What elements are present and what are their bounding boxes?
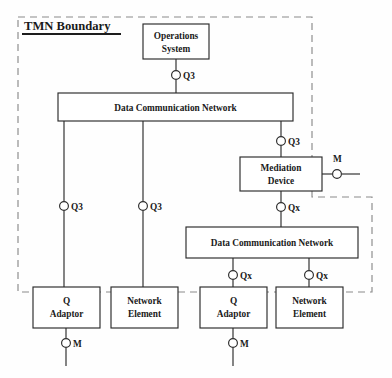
interface-m-q-adaptor-right[interactable]: M	[229, 339, 249, 349]
interface-circle-icon[interactable]	[60, 202, 69, 211]
interface-circle-icon[interactable]	[172, 71, 181, 80]
dcn-bottom-label: Data Communication Network	[211, 238, 334, 248]
node-data-communication-network-bottom[interactable]: Data Communication Network	[186, 227, 358, 258]
interface-circle-icon[interactable]	[277, 137, 286, 146]
diagram-canvas: TMN Boundary Op	[0, 0, 392, 378]
node-q-adaptor-left[interactable]: Q Adaptor	[33, 287, 100, 328]
network-element-left-label-line2: Element	[128, 309, 162, 319]
interface-m-mediation-label: M	[333, 154, 342, 164]
mediation-device-label-line1: Mediation	[261, 163, 303, 173]
interface-qx-network-element-right[interactable]: Qx	[305, 271, 329, 281]
mediation-device-label-line2: Device	[268, 176, 294, 186]
interface-qx-mediation-dcn[interactable]: Qx	[277, 203, 301, 213]
interface-m-q-adaptor-left-label: M	[73, 339, 82, 349]
interface-q3-dcn-mediation-label: Q3	[288, 137, 300, 147]
node-network-element-left[interactable]: Network Element	[111, 287, 178, 328]
operations-system-label-line2: System	[162, 44, 191, 54]
interface-q3-os-dcn[interactable]: Q3	[172, 71, 196, 81]
interface-m-q-adaptor-left[interactable]: M	[62, 339, 82, 349]
tmn-architecture-diagram: TMN Boundary Op	[0, 0, 392, 378]
interface-circle-icon[interactable]	[229, 339, 238, 348]
q-adaptor-right-box[interactable]	[200, 287, 267, 328]
network-element-left-label-line1: Network	[127, 296, 162, 306]
interface-qx-q-adaptor-right[interactable]: Qx	[229, 271, 253, 281]
q-adaptor-left-label-line1: Q	[63, 296, 70, 306]
node-data-communication-network-top[interactable]: Data Communication Network	[58, 93, 293, 121]
interface-qx-network-element-right-label: Qx	[316, 271, 328, 281]
network-element-left-box[interactable]	[111, 287, 178, 328]
network-element-right-label-line1: Network	[292, 296, 327, 306]
interface-q3-dcn-mediation[interactable]: Q3	[277, 137, 301, 147]
boundary-title-label: TMN Boundary	[24, 19, 111, 33]
interface-q3-network-element-left[interactable]: Q3	[139, 202, 163, 212]
interface-qx-q-adaptor-right-label: Qx	[240, 271, 252, 281]
interface-q3-q-adaptor-left[interactable]: Q3	[60, 202, 84, 212]
network-element-right-box[interactable]	[276, 287, 343, 328]
interface-circle-icon[interactable]	[305, 271, 314, 280]
interface-circle-icon[interactable]	[333, 170, 342, 179]
node-q-adaptor-right[interactable]: Q Adaptor	[200, 287, 267, 328]
q-adaptor-right-label-line1: Q	[230, 296, 237, 306]
q-adaptor-left-label-line2: Adaptor	[50, 309, 84, 319]
dcn-top-label: Data Communication Network	[114, 103, 237, 113]
q-adaptor-left-box[interactable]	[33, 287, 100, 328]
interface-m-q-adaptor-right-label: M	[240, 339, 249, 349]
interface-qx-mediation-dcn-label: Qx	[288, 203, 300, 213]
interface-q3-q-adaptor-left-label: Q3	[71, 202, 83, 212]
interface-circle-icon[interactable]	[62, 339, 71, 348]
node-operations-system[interactable]: Operations System	[143, 24, 209, 59]
operations-system-label-line1: Operations	[154, 31, 199, 41]
interface-q3-network-element-left-label: Q3	[150, 202, 162, 212]
interface-circle-icon[interactable]	[277, 203, 286, 212]
network-element-right-label-line2: Element	[293, 309, 327, 319]
interface-m-mediation[interactable]: M	[333, 154, 342, 178]
interface-circle-icon[interactable]	[229, 271, 238, 280]
node-mediation-device[interactable]: Mediation Device	[240, 157, 322, 191]
q-adaptor-right-label-line2: Adaptor	[217, 309, 251, 319]
node-network-element-right[interactable]: Network Element	[276, 287, 343, 328]
interface-circle-icon[interactable]	[139, 202, 148, 211]
interface-q3-os-dcn-label: Q3	[183, 71, 195, 81]
